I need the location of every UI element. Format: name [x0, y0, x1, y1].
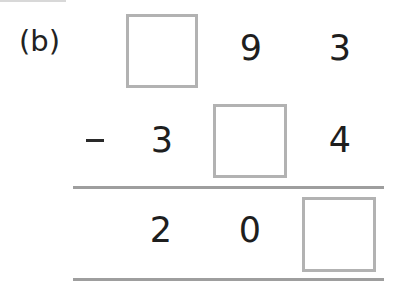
sum-line-top	[73, 186, 384, 189]
problem-label: (b)	[19, 21, 60, 61]
digit-difference-hundreds: 2	[131, 208, 191, 252]
answer-box-difference-ones[interactable]	[302, 197, 376, 272]
answer-box-minuend-hundreds[interactable]	[126, 14, 198, 88]
answer-box-subtrahend-tens[interactable]	[213, 104, 287, 178]
digit-subtrahend-hundreds: 3	[132, 118, 192, 162]
digit-difference-tens: 0	[220, 208, 280, 252]
top-divider	[0, 0, 66, 2]
minus-sign	[86, 139, 104, 142]
digit-subtrahend-ones: 4	[310, 118, 370, 162]
digit-minuend-tens: 9	[221, 26, 281, 70]
digit-minuend-ones: 3	[310, 26, 370, 70]
sum-line-bottom	[73, 278, 384, 281]
